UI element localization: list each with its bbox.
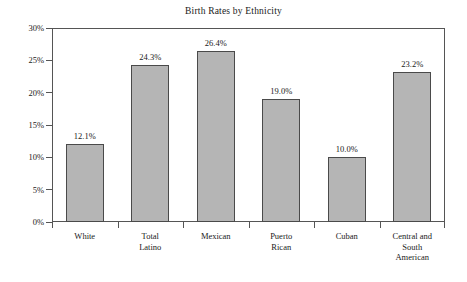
bar-value-label: 19.0%	[270, 86, 292, 96]
x-axis: WhiteTotalLatinoMexicanPuertoRicanCubanC…	[52, 222, 445, 282]
bar-value-label: 10.0%	[336, 144, 358, 154]
bar[interactable]	[66, 144, 104, 222]
x-axis-category-label: Central andSouthAmerican	[380, 231, 446, 263]
x-axis-category-label: White	[52, 231, 118, 242]
bar-chart: Birth Rates by Ethnicity 30%25%20%15%10%…	[0, 0, 467, 282]
y-axis-tick-label: 30%	[28, 22, 44, 34]
x-axis-category-line: Cuban	[314, 231, 380, 242]
x-axis-category-line: American	[380, 252, 446, 263]
bar-value-label: 23.2%	[401, 59, 423, 69]
x-axis-category-label: PuertoRican	[249, 231, 315, 252]
x-axis-tick-mark	[249, 222, 250, 228]
x-axis-tick-mark	[314, 222, 315, 228]
bar-value-label: 24.3%	[139, 52, 161, 62]
x-axis-category-line: Central and	[380, 231, 446, 242]
bar-group: 24.3%	[118, 28, 184, 222]
x-axis-category-line: Puerto	[249, 231, 315, 242]
y-axis-tick-label: 15%	[28, 119, 44, 131]
bar-value-label: 12.1%	[74, 131, 96, 141]
x-axis-category-label: TotalLatino	[118, 231, 184, 252]
x-axis-category-line: Latino	[118, 242, 184, 253]
y-axis-tick-label: 10%	[28, 151, 44, 163]
bar[interactable]	[131, 65, 169, 222]
y-axis-tick-label: 5%	[33, 184, 44, 196]
x-axis-tick-mark	[444, 222, 445, 228]
x-axis-category-line: Total	[118, 231, 184, 242]
bar-group: 26.4%	[183, 28, 249, 222]
bar-group: 12.1%	[52, 28, 118, 222]
bar[interactable]	[393, 72, 431, 222]
bar-group: 23.2%	[380, 28, 446, 222]
y-axis-tick-label: 25%	[28, 54, 44, 66]
x-axis-category-line: White	[52, 231, 118, 242]
chart-title: Birth Rates by Ethnicity	[0, 6, 467, 16]
bar-value-label: 26.4%	[205, 38, 227, 48]
bar[interactable]	[197, 51, 235, 222]
y-axis: 30%25%20%15%10%5%0%	[0, 28, 52, 222]
bar[interactable]	[328, 157, 366, 222]
x-axis-category-label: Mexican	[183, 231, 249, 242]
x-axis-tick-mark	[118, 222, 119, 228]
x-axis-tick-mark	[52, 222, 53, 228]
x-axis-tick-mark	[380, 222, 381, 228]
bar-group: 10.0%	[314, 28, 380, 222]
y-axis-tick-label: 0%	[33, 216, 44, 228]
x-axis-category-line: Rican	[249, 242, 315, 253]
bar-group: 19.0%	[249, 28, 315, 222]
x-axis-category-line: South	[380, 242, 446, 253]
x-axis-tick-mark	[183, 222, 184, 228]
x-axis-category-line: Mexican	[183, 231, 249, 242]
bar[interactable]	[262, 99, 300, 222]
x-axis-category-label: Cuban	[314, 231, 380, 242]
y-axis-tick-label: 20%	[28, 87, 44, 99]
bars-layer: 12.1%24.3%26.4%19.0%10.0%23.2%	[52, 28, 445, 222]
